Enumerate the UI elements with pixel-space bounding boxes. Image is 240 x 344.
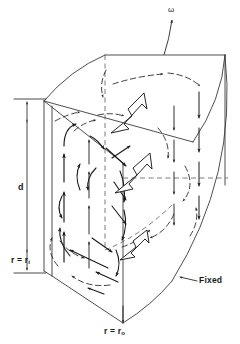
arc-mid-right-return	[183, 166, 190, 201]
arc-bottom-left	[72, 276, 110, 286]
arc-top-left-inflow	[113, 74, 163, 84]
rotating-annulus-diagram	[0, 0, 240, 344]
arrow-front-down3	[122, 210, 126, 240]
arrow-left-fold-down	[59, 196, 62, 218]
arc-bottom-inner-up	[50, 238, 58, 266]
front-cell-arrows	[59, 146, 130, 294]
fixed-label-leader	[180, 277, 197, 281]
omega-axis-arrow	[164, 20, 172, 55]
outer-radius-prefix: r = r	[104, 326, 121, 336]
arc-lower-right-return	[150, 214, 174, 238]
edge-left-bottom-cap	[44, 271, 52, 276]
arrow-bottom-left-run2	[96, 272, 118, 282]
inner-radius-label: r = ri	[11, 256, 30, 265]
edge-top-inner-arc	[44, 55, 105, 101]
edge-bottom-left	[52, 276, 123, 323]
arc-top-right-outflow	[168, 73, 200, 86]
edge-bottom-right	[123, 281, 172, 323]
arc-right-lower-loop	[190, 208, 197, 236]
edge-top-front-left	[44, 101, 193, 142]
arc-upper-left-mid	[74, 120, 96, 131]
omega-label: ω	[168, 6, 174, 14]
edge-top-outer-arc	[193, 55, 225, 142]
outer-radius-label: r = ro	[104, 327, 125, 336]
inner-wall-upflow-arrows	[64, 124, 76, 262]
figure-root: ω d r = ri r = ro Fixed	[0, 0, 240, 344]
arrow-center-up-right	[112, 146, 130, 158]
inner-radius-subscript: i	[28, 258, 30, 265]
arrow-front-down4	[112, 206, 126, 224]
arc-center-inflow	[98, 114, 124, 116]
arrow-bottom-small-left	[88, 288, 104, 294]
outer-radius-subscript: o	[121, 329, 125, 336]
edge-mid-front	[44, 101, 123, 163]
arrow-mid-left-up	[77, 164, 80, 190]
azimuthal-hollow-arrows	[111, 93, 152, 260]
inner-radius-prefix: r = r	[11, 255, 28, 265]
fixed-wall-label: Fixed	[199, 276, 222, 285]
arrow-bottom-up-left	[60, 228, 70, 256]
arrow-bottom-center-down	[116, 250, 119, 276]
arrow-mid-diag	[92, 238, 112, 252]
hollow-arrow-upper	[111, 93, 147, 133]
gap-height-label: d	[18, 183, 24, 192]
